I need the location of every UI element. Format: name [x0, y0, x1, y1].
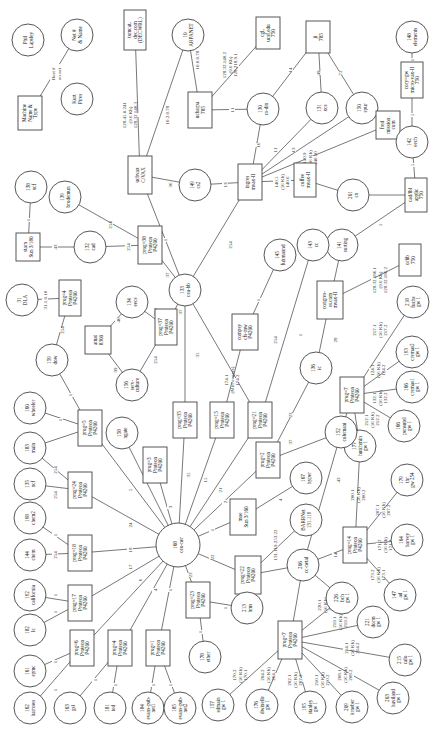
node-ether[interactable]: 178ether [189, 641, 221, 673]
node-gsl[interactable]: 163gsl [54, 692, 86, 724]
node-cs-dix[interactable]: 130cs-dix [247, 93, 279, 125]
legend-leg-phil[interactable]: PhilLapsley [12, 24, 44, 56]
node-hub[interactable]: 168ceo-ner [156, 523, 200, 567]
node-spur[interactable]: 150spur [346, 92, 378, 124]
node-ngate[interactable]: 158ngate [106, 417, 138, 449]
node-prog35[interactable]: prog=35ProteonP4200 [173, 402, 197, 438]
node-prog4b[interactable]: prog=4ProteonP4200 [108, 630, 132, 666]
node-ad147[interactable]: 147adgw 1 [384, 579, 416, 611]
node-prog38[interactable]: prog=38ProteonP4200 [138, 226, 162, 264]
node-prog18[interactable]: prog=18ProteonP4200 [68, 535, 92, 571]
node-wheeler[interactable]: 160wheeler [14, 392, 46, 424]
node-cremas2[interactable]: 193cremas2gw 1 [396, 336, 428, 368]
node-ingres[interactable]: ingresmvax-II [238, 164, 262, 200]
node-evans1[interactable]: 184evans-pub-net1 [132, 692, 164, 724]
node-brodemun[interactable]: 139brodemun [49, 181, 81, 213]
node-cremas1[interactable]: 166cremas1gw 1 [396, 371, 428, 403]
node-california[interactable]: 192california [14, 579, 46, 611]
node-prog22[interactable]: prog=22ProteonP4200 [235, 556, 261, 594]
node-orlib[interactable]: orlib750 [399, 244, 421, 276]
node-colemani[interactable]: 152colemani [325, 416, 357, 448]
node-ic[interactable]: 136ic [300, 352, 332, 384]
node-cgl[interactable]: cgl,ucsf.edu750 [256, 17, 280, 49]
node-main[interactable]: 183main [14, 432, 46, 464]
node-dow[interactable]: 159dow [36, 344, 68, 376]
node-elements[interactable]: 148elements [396, 21, 428, 53]
node-cea[interactable]: 133cea-bb [169, 274, 201, 306]
legend-leg-machine[interactable]: MachineName &Type [18, 96, 42, 130]
node-dorm[interactable]: 221dormgw 1 [357, 606, 389, 638]
node-chem2[interactable]: 198chem2 [14, 502, 46, 534]
node-coffee[interactable]: coffeemvax-II [294, 163, 316, 197]
node-fred[interactable]: fredmission.com [376, 111, 400, 139]
node-prog24[interactable]: prog=24ProteonP4200 [68, 472, 92, 508]
node-congress[interactable]: congres-ss.commvax-II [317, 281, 343, 319]
node-xcf[interactable]: 138xcf [15, 171, 47, 203]
node-haviland[interactable]: 203havilandgw 1 [377, 682, 409, 714]
node-chem[interactable]: 144chem [14, 539, 46, 571]
node-starn[interactable]: starnSun 3/180 [16, 233, 40, 261]
node-hyper[interactable]: 167hyper [290, 462, 322, 494]
node-compsy[interactable]: compsycfs-mwP4200 [232, 314, 258, 350]
node-stanley[interactable]: 195stanleygw 1 [294, 691, 326, 723]
node-cad[interactable]: cad/lblapplic750 [405, 178, 427, 212]
node-ji[interactable]: ji785 [306, 21, 330, 53]
node-arpanet[interactable]: 10ARPANET [172, 19, 204, 51]
node-amat[interactable]: amat8300 [85, 326, 111, 354]
node-fuchs[interactable]: 218fuchsgw 1 [397, 286, 429, 318]
node-bch[interactable]: 226bchgw 1 [326, 582, 358, 614]
node-sdmain[interactable]: 157sdmaingw 1 [202, 689, 234, 721]
legend-leg-net[interactable]: Net #& Name [61, 19, 93, 51]
node-hms[interactable]: 213hms [231, 592, 263, 624]
node-prog7b[interactable]: prog=7ProteonP4200 [278, 621, 302, 659]
node-prog4[interactable]: prog=4ProteonP4200 [59, 280, 81, 316]
node-prog2[interactable]: prog=2ProteonP4200 [256, 442, 280, 478]
node-pensutel[interactable]: 166pensutelgw 1 [388, 410, 420, 442]
node-kroeber[interactable]: 209kroebergw 1 [336, 691, 368, 723]
node-evans2[interactable]: 185evans-pub-net2 [164, 692, 196, 724]
node-moe[interactable]: moeSun 3/160 [230, 499, 256, 535]
legend-leg-kurt[interactable]: KurtPires [61, 83, 93, 115]
node-dla[interactable]: 31DLA [6, 284, 38, 316]
node-lc[interactable]: 182lc [14, 614, 46, 646]
node-prog15[interactable]: prog=15ProteonP4200 [210, 402, 234, 438]
edge-label: 128.32.186.1(9.6 Kb)128.32.186.2 [372, 266, 388, 293]
node-csnetal[interactable]: 206cc-netal [287, 549, 319, 581]
node-prog1[interactable]: prog=1ProteonP4200 [146, 630, 170, 666]
node-cad132[interactable]: 132cad [74, 231, 106, 263]
node-prog5[interactable]: prog=5ProteonP4200 [78, 410, 102, 446]
node-cs2[interactable]: 149cs2 [179, 169, 211, 201]
node-prog6[interactable]: prog=6ProteonP4200 [70, 630, 94, 666]
node-eech[interactable]: 142eech [396, 126, 428, 158]
node-sorting[interactable]: 141sorting [326, 229, 358, 261]
node-thr[interactable]: 179thrgw 254 [391, 464, 423, 496]
node-ied[interactable]: 181ied [94, 692, 126, 724]
node-prog17[interactable]: prog=17ProteonP4200 [68, 585, 92, 621]
node-prog3[interactable]: prog=3ProteonP4200 [143, 447, 167, 483]
node-dwinelle[interactable]: 176dwinellegw 1 [246, 689, 278, 721]
node-prog21[interactable]: prog=21ProteonP4200 [248, 402, 272, 438]
node-xcf135[interactable]: 135xcf [14, 468, 46, 500]
node-cx[interactable]: 201cx [337, 179, 369, 211]
node-tomcat[interactable]: tomcat,dec.com(DECWRL) [124, 10, 146, 50]
node-eecs[interactable]: 134eecs [116, 286, 148, 318]
node-label-line: P4200 [160, 641, 166, 655]
node-ucbvax[interactable]: ucbvaxC/VAX [128, 156, 152, 194]
node-prog7[interactable]: prog=7ProteonP4200 [340, 377, 364, 413]
node-calo[interactable]: 215calogw 1 [389, 644, 421, 676]
node-prog14[interactable]: prog=14ProteonP4200 [343, 527, 367, 563]
node-epmc[interactable]: 161epmc [14, 655, 46, 687]
edge-label-line: 28 [333, 337, 338, 343]
node-prog23[interactable]: prog=23ProteonP4200 [186, 582, 210, 618]
node-sercs[interactable]: 156serv-culture [116, 369, 148, 401]
node-ucbarpa[interactable]: ucbarpa785 [188, 92, 212, 128]
node-cory[interactable]: cory=gwmicro-vax-II750 [401, 62, 423, 98]
node-harrows[interactable]: 162harrows [14, 692, 46, 724]
node-xcs[interactable]: 131xcs [306, 92, 338, 124]
node-harvey[interactable]: 164harveygw 1 [391, 524, 423, 556]
node-barnet[interactable]: BARRNet131.119 [290, 504, 322, 536]
node-prog37[interactable]: prog=37ProteonP4200 [155, 309, 177, 345]
node-cc[interactable]: 143cc [297, 229, 329, 261]
node-label: ucbvaxC/VAX [134, 167, 146, 183]
node-fuhmannd[interactable]: 145fuhmannd [264, 239, 296, 271]
